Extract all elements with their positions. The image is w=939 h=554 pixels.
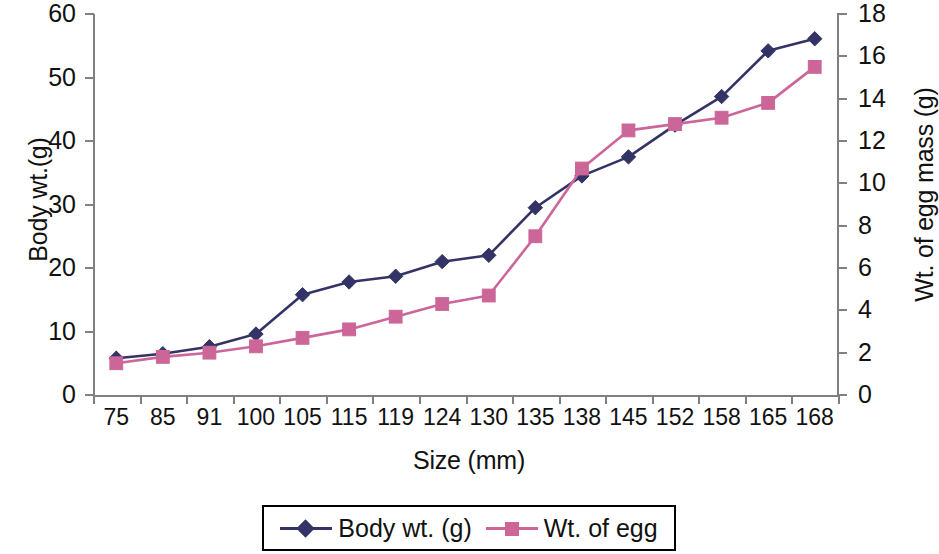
y-axis-left-ticklabel: 30	[10, 192, 76, 217]
y-axis-right-ticklabel: 4	[858, 297, 918, 322]
data-point-square-icon	[296, 331, 309, 344]
x-axis-ticklabel: 145	[609, 404, 647, 431]
x-axis-title: Size (mm)	[0, 446, 938, 475]
data-point-diamond-icon	[808, 32, 822, 46]
x-axis-ticklabel: 115	[331, 404, 368, 431]
x-axis-ticklabel: 130	[470, 404, 508, 431]
series-body-wt-g	[109, 32, 822, 366]
y-axis-right-ticklabel: 0	[858, 382, 918, 407]
series-line	[116, 67, 814, 363]
legend-label-body-wt: Body wt. (g)	[338, 514, 471, 543]
y-axis-right-tick	[837, 13, 847, 15]
data-point-square-icon	[762, 97, 775, 110]
legend-swatch-diamond-icon	[280, 520, 332, 536]
y-axis-right-tick	[837, 267, 847, 269]
data-point-square-icon	[250, 340, 263, 353]
y-axis-right-ticklabel: 18	[858, 1, 918, 26]
y-axis-right-ticklabel: 10	[858, 170, 918, 195]
data-point-square-icon	[156, 351, 169, 364]
legend-label-wt-of-egg: Wt. of egg	[544, 514, 658, 543]
x-axis-ticklabel: 135	[516, 404, 554, 431]
data-point-diamond-icon	[435, 254, 449, 268]
series-layer	[93, 14, 838, 397]
x-axis-ticklabel: 168	[796, 404, 834, 431]
y-axis-right-ticklabel: 16	[858, 43, 918, 68]
y-axis-right-ticklabel: 14	[858, 86, 918, 111]
y-axis-left-ticklabel: 10	[10, 319, 76, 344]
y-axis-left-ticklabel: 20	[10, 255, 76, 280]
x-axis-ticklabel: 75	[103, 404, 129, 431]
y-axis-left-ticklabel: 40	[10, 128, 76, 153]
data-point-square-icon	[389, 310, 402, 323]
legend-item-body-wt: Body wt. (g)	[280, 514, 471, 543]
y-axis-right-tick	[837, 225, 847, 227]
data-point-square-icon	[808, 61, 821, 74]
legend-swatch-square-icon	[486, 520, 538, 536]
x-axis-ticklabel: 105	[283, 404, 321, 431]
y-axis-right-ticklabel: 8	[858, 213, 918, 238]
data-point-square-icon	[203, 346, 216, 359]
y-axis-right-tick	[837, 352, 847, 354]
data-point-square-icon	[110, 357, 123, 370]
x-axis-ticklabel: 165	[749, 404, 787, 431]
data-point-square-icon	[343, 323, 356, 336]
x-axis-ticklabel: 100	[237, 404, 275, 431]
y-axis-right-tick	[837, 55, 847, 57]
y-axis-right-ticklabel: 6	[858, 255, 918, 280]
data-point-square-icon	[715, 111, 728, 124]
series-line	[116, 39, 814, 358]
y-axis-left-ticklabel: 60	[10, 1, 76, 26]
y-axis-right-tick	[837, 98, 847, 100]
x-axis-ticklabel: 124	[423, 404, 461, 431]
y-axis-left-ticklabel: 0	[10, 382, 76, 407]
y-axis-right-tick	[837, 182, 847, 184]
data-point-diamond-icon	[342, 275, 356, 289]
data-point-diamond-icon	[621, 150, 635, 164]
x-axis-ticklabel: 85	[150, 404, 176, 431]
x-axis-ticklabel: 91	[197, 404, 223, 431]
series-wt-of-egg	[110, 61, 821, 370]
data-point-square-icon	[529, 230, 542, 243]
y-axis-right-tick	[837, 309, 847, 311]
x-axis-ticklabel: 119	[377, 404, 414, 431]
x-axis-tick	[838, 395, 840, 404]
data-point-diamond-icon	[388, 269, 402, 283]
data-point-square-icon	[576, 162, 589, 175]
y-axis-left-ticklabel: 50	[10, 65, 76, 90]
plot-area	[93, 14, 838, 395]
y-axis-right-ticklabel: 12	[858, 128, 918, 153]
chart-legend: Body wt. (g) Wt. of egg	[262, 505, 676, 551]
x-axis-ticklabel: 158	[702, 404, 740, 431]
data-point-square-icon	[669, 118, 682, 131]
data-point-square-icon	[482, 289, 495, 302]
y-axis-right-tick	[837, 140, 847, 142]
legend-item-wt-of-egg: Wt. of egg	[486, 514, 658, 543]
data-point-square-icon	[622, 124, 635, 137]
x-axis-ticklabel: 138	[563, 404, 601, 431]
x-axis-ticklabel: 152	[656, 404, 694, 431]
y-axis-right-ticklabel: 2	[858, 340, 918, 365]
data-point-square-icon	[436, 298, 449, 311]
